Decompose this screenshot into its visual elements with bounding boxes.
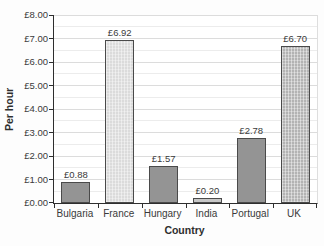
y-axis-tick	[49, 62, 54, 63]
y-tick-label: £7.00	[0, 33, 48, 44]
bar-value-label: £0.88	[54, 169, 98, 180]
x-tick-label: Bulgaria	[53, 208, 97, 219]
y-tick-label: £1.00	[0, 174, 48, 185]
y-tick-label: £5.00	[0, 80, 48, 91]
x-tick-label: India	[185, 208, 229, 219]
minor-gridline	[54, 50, 317, 51]
bar-india	[193, 198, 222, 203]
major-gridline	[54, 109, 317, 110]
minor-gridline	[54, 144, 317, 145]
x-axis-tick	[316, 203, 317, 208]
bar-value-label: £2.78	[229, 125, 273, 136]
plot-area: £0.88£6.92£1.57£0.20£2.78£6.70	[53, 15, 318, 204]
bar-value-label: £6.70	[273, 33, 317, 44]
y-axis-tick	[49, 132, 54, 133]
bar-chart: Per hour £0.88£6.92£1.57£0.20£2.78£6.70 …	[0, 0, 324, 246]
y-axis-tick	[49, 15, 54, 16]
bar-value-label: £6.92	[98, 27, 142, 38]
bar-value-label: £1.57	[142, 153, 186, 164]
minor-gridline	[54, 167, 317, 168]
y-axis-tick	[49, 85, 54, 86]
major-gridline	[54, 132, 317, 133]
x-tick-label: France	[97, 208, 141, 219]
minor-gridline	[54, 26, 317, 27]
bar-france	[105, 40, 134, 203]
y-tick-label: £4.00	[0, 103, 48, 114]
bar-portugal	[237, 138, 266, 203]
minor-gridline	[54, 120, 317, 121]
minor-gridline	[54, 97, 317, 98]
y-tick-label: £6.00	[0, 56, 48, 67]
bar-hungary	[149, 166, 178, 203]
x-tick-label: Portugal	[228, 208, 272, 219]
minor-gridline	[54, 73, 317, 74]
y-tick-label: £3.00	[0, 127, 48, 138]
y-axis-tick	[49, 156, 54, 157]
major-gridline	[54, 156, 317, 157]
major-gridline	[54, 62, 317, 63]
y-tick-label: £0.00	[0, 197, 48, 208]
y-tick-label: £8.00	[0, 9, 48, 20]
bar-bulgaria	[61, 182, 90, 203]
x-tick-label: Hungary	[141, 208, 185, 219]
x-axis-title: Country	[53, 224, 316, 236]
bar-uk	[281, 46, 310, 203]
x-tick-label: UK	[272, 208, 316, 219]
bar-value-label: £0.20	[186, 185, 230, 196]
major-gridline	[54, 15, 317, 16]
y-axis-tick	[49, 109, 54, 110]
major-gridline	[54, 85, 317, 86]
y-axis-tick	[49, 38, 54, 39]
y-tick-label: £2.00	[0, 150, 48, 161]
